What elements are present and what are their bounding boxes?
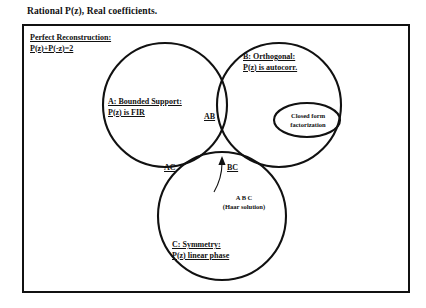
perfect-reconstruction-line1: Perfect Reconstruction: bbox=[30, 33, 111, 44]
set-c-label: C: Symmetry: P(z) linear phase bbox=[172, 240, 229, 261]
closed-form-line2: factorization bbox=[290, 121, 325, 128]
set-a-line2: P(z) is FIR bbox=[108, 108, 182, 119]
intersection-ab-label: AB bbox=[204, 112, 215, 121]
set-b-label: B: Orthogonal: P(z) is autocorr. bbox=[243, 52, 297, 73]
intersection-bc-label: BC bbox=[227, 163, 238, 172]
set-c-line2: P(z) linear phase bbox=[172, 251, 229, 262]
set-b-line2: P(z) is autocorr. bbox=[243, 63, 297, 74]
set-a-label: A: Bounded Support: P(z) is FIR bbox=[108, 97, 182, 118]
set-a-line1: A: Bounded Support: bbox=[108, 97, 182, 108]
closed-form-line1: Closed form bbox=[291, 112, 325, 119]
haar-solution-label: A B C (Haar solution) bbox=[208, 194, 280, 212]
set-c-line1: C: Symmetry: bbox=[172, 240, 229, 251]
set-b-line1: B: Orthogonal: bbox=[243, 52, 297, 63]
perfect-reconstruction-line2: P(z)+P(-z)=2 bbox=[30, 44, 111, 55]
intersection-ac-label: AC bbox=[164, 163, 176, 172]
haar-line1: A B C bbox=[236, 194, 253, 201]
venn-diagram-page: Rational P(z), Real coefficients. Perfec… bbox=[0, 0, 426, 308]
haar-line2: (Haar solution) bbox=[223, 203, 265, 210]
page-title: Rational P(z), Real coefficients. bbox=[27, 6, 157, 16]
perfect-reconstruction-note: Perfect Reconstruction: P(z)+P(-z)=2 bbox=[30, 33, 111, 54]
closed-form-label: Closed form factorization bbox=[275, 112, 341, 130]
